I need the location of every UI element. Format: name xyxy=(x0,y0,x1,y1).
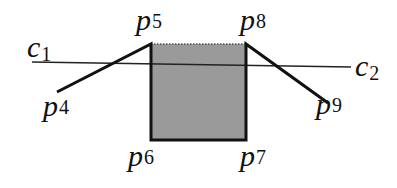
diagram-canvas: c1 c2 p5 p8 p4 p9 p6 p7 xyxy=(0,0,397,188)
label-c2: c2 xyxy=(355,49,379,84)
label-p5: p5 xyxy=(134,3,162,36)
label-p6: p6 xyxy=(126,139,154,172)
label-p7: p7 xyxy=(238,139,266,172)
label-p8: p8 xyxy=(238,3,266,36)
label-c1: c1 xyxy=(27,30,51,65)
label-p9: p9 xyxy=(314,87,342,120)
shaded-rectangle xyxy=(151,44,246,140)
label-p4: p4 xyxy=(41,89,69,122)
